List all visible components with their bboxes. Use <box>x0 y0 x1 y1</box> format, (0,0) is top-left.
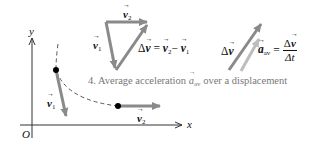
minus-sign: − <box>171 42 178 54</box>
fraction: Δv Δt <box>283 38 297 63</box>
triangle-v1-label: v1 <box>93 40 101 53</box>
fraction-numerator: Δv <box>283 38 297 51</box>
vector-symbol: v <box>291 38 296 49</box>
point-1 <box>53 67 59 73</box>
delta-v-arrow-label: Δv <box>221 46 234 58</box>
equals-sign: = <box>153 42 160 54</box>
point2-velocity-label: v2 <box>137 113 145 126</box>
origin-label: O <box>22 129 30 140</box>
average-acceleration-formula: aav = Δv Δt <box>258 38 297 63</box>
delta-symbol: Δ <box>284 37 291 49</box>
subscript: av <box>264 49 271 57</box>
subscript: 2 <box>142 118 146 126</box>
subscript: 1 <box>52 103 56 111</box>
vector-symbol: v <box>47 98 52 109</box>
subscript: av <box>194 80 201 88</box>
vector-symbol: v <box>228 46 233 58</box>
vector-symbol: v <box>137 113 142 124</box>
fraction-denominator: Δt <box>285 51 295 63</box>
caption-prefix: 4. Average acceleration <box>88 75 186 86</box>
delta-symbol: Δ <box>138 42 145 54</box>
point-2 <box>115 103 121 109</box>
point1-velocity-label: v1 <box>47 98 55 111</box>
subscript: 1 <box>98 45 102 53</box>
average-acceleration-arrow <box>241 39 259 71</box>
subscript: 1 <box>186 48 190 56</box>
y-axis-label: y <box>29 26 34 37</box>
equals-sign: = <box>273 45 280 57</box>
triangle-v1 <box>106 22 115 68</box>
x-axis-label: x <box>187 119 192 130</box>
delta-v-equation: Δv = v2− v1 <box>138 43 189 56</box>
triangle-v2-label: v2 <box>123 9 131 22</box>
vector-symbol: a <box>258 44 264 56</box>
vector-symbol: v <box>93 40 98 51</box>
vector-symbol: v <box>123 9 128 20</box>
subscript: 2 <box>128 14 132 22</box>
delta-symbol: Δ <box>221 45 228 57</box>
vector-symbol: v <box>163 43 168 55</box>
vector-symbol: v <box>145 43 150 55</box>
caption-suffix: over a displacement <box>203 75 287 86</box>
vector-symbol: v <box>181 43 186 55</box>
caption: 4. Average acceleration aav over a displ… <box>88 76 287 88</box>
vector-symbol: a <box>189 76 194 87</box>
velocity-vector-1 <box>56 70 66 116</box>
average-acceleration-diagram: y x O v1 v2 v2 v1 Δv = v2− v1 Δv aav = Δ… <box>0 0 323 158</box>
